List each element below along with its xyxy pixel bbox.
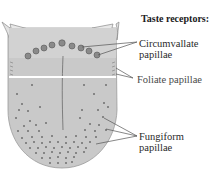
leader-foliate-1 — [116, 68, 133, 78]
label-fungiform-line2: papillae — [139, 142, 184, 153]
tongue-diagram — [0, 0, 222, 171]
label-fungiform-papillae: Fungiform papillae — [139, 131, 184, 153]
left-pharynx-flap — [2, 22, 10, 40]
label-fungiform-line1: Fungiform — [139, 131, 184, 142]
label-foliate-papillae: Foliate papillae — [137, 74, 202, 85]
diagram-title: Taste receptors: — [141, 13, 209, 24]
label-circumvallate-line2: papillae — [139, 49, 198, 60]
white-band — [9, 76, 116, 78]
label-foliate-line1: Foliate papillae — [137, 74, 202, 85]
leader-foliate-2 — [116, 74, 133, 78]
label-circumvallate-line1: Circumvallate — [139, 38, 198, 49]
label-circumvallate-papillae: Circumvallate papillae — [139, 38, 198, 60]
